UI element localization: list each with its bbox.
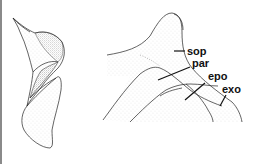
label-par: par [192, 57, 210, 69]
label-sop: sop [187, 45, 207, 57]
left-figure [13, 18, 64, 148]
right-figure [103, 13, 242, 122]
label-exo: exo [222, 83, 241, 95]
figure-canvas: sop par epo exo [0, 0, 256, 164]
label-epo: epo [208, 70, 228, 82]
diagram-svg: sop par epo exo [0, 0, 256, 164]
